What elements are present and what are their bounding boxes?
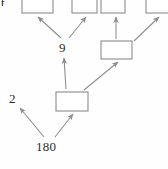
arrow-box-low-to-box-mid <box>84 62 118 90</box>
boxes-layer <box>22 0 168 111</box>
arrow-9-to-box-top-1 <box>38 17 61 38</box>
diagram-graphics <box>0 0 168 169</box>
arrows-layer <box>20 17 159 137</box>
box-mid <box>101 41 132 59</box>
box-top-1 <box>22 0 53 13</box>
node-label-2: 2 <box>9 92 16 105</box>
arrow-box-low-to-9 <box>64 58 66 89</box>
arrow-180-to-2 <box>20 108 44 137</box>
arrow-box-mid-to-box-top-4 <box>134 17 159 41</box>
box-low <box>56 92 88 111</box>
node-label-180: 180 <box>36 140 56 153</box>
box-top-3 <box>101 0 125 13</box>
box-top-4 <box>146 0 168 13</box>
node-label-9: 9 <box>59 41 66 54</box>
arrow-9-to-box-top-2 <box>69 17 86 38</box>
arrow-180-to-box-low <box>55 114 73 137</box>
diagram-canvas: t 9 2 180 <box>0 0 168 169</box>
box-top-2 <box>72 0 97 13</box>
